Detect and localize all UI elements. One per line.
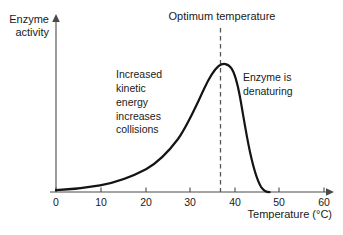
- y-axis-title: Enzymeactivity: [0, 13, 49, 39]
- x-tick-label-30: 30: [177, 196, 203, 208]
- rising-limb-annotation-line-1: Increased: [116, 68, 162, 80]
- x-axis-arrowhead: [326, 188, 334, 196]
- rising-limb-annotation-line-4: increases: [116, 110, 161, 122]
- rising-limb-annotation-line-3: energy: [116, 96, 148, 108]
- y-axis-arrowhead: [52, 14, 60, 22]
- enzyme-activity-temperature-chart: Enzymeactivity Temperature (°C) Optimum …: [0, 0, 343, 235]
- x-axis-ticks: [56, 188, 324, 193]
- rising-limb-annotation: Increasedkineticenergyincreasescollision…: [116, 68, 190, 137]
- y-axis-title-line-2: activity: [15, 26, 49, 38]
- x-tick-label-50: 50: [266, 196, 292, 208]
- x-tick-label-40: 40: [222, 196, 248, 208]
- falling-limb-annotation-line-1: Enzyme is: [243, 71, 291, 83]
- rising-limb-annotation-line-5: collisions: [116, 123, 159, 135]
- rising-limb-annotation-line-2: kinetic: [116, 82, 146, 94]
- falling-limb-annotation: Enzyme isdenaturing: [243, 71, 335, 99]
- x-tick-label-10: 10: [88, 196, 114, 208]
- x-tick-label-0: 0: [43, 196, 69, 208]
- falling-limb-annotation-line-2: denaturing: [243, 85, 293, 97]
- x-tick-label-20: 20: [133, 196, 159, 208]
- optimum-temperature-label: Optimum temperature: [152, 10, 292, 23]
- y-axis-title-line-1: Enzyme: [9, 13, 49, 25]
- x-tick-label-60: 60: [311, 196, 337, 208]
- x-axis-title: Temperature (°C): [200, 208, 332, 221]
